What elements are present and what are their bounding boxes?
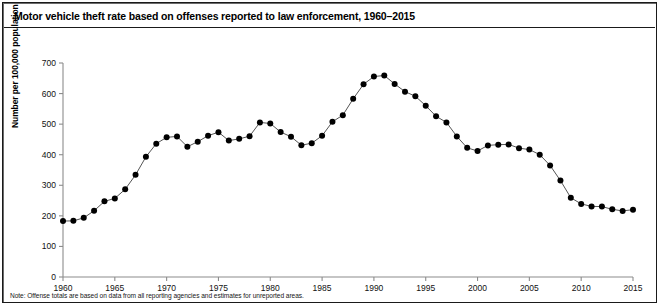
data-point-marker	[443, 119, 449, 125]
data-point-marker	[288, 134, 294, 140]
axis-layer	[59, 63, 633, 281]
data-point-marker	[578, 201, 584, 207]
data-point-marker	[112, 195, 118, 201]
data-point-marker	[589, 203, 595, 209]
data-point-marker	[620, 208, 626, 214]
figure-container: Motor vehicle theft rate based on offens…	[0, 0, 659, 305]
data-point-marker	[392, 81, 398, 87]
data-point-marker	[247, 133, 253, 139]
data-point-marker	[267, 120, 273, 126]
y-axis-tick-label: 700	[30, 59, 56, 68]
x-axis-tick-label: 2005	[514, 284, 544, 293]
data-point-marker	[309, 140, 315, 146]
y-axis-tick-label: 0	[30, 273, 56, 282]
title-bar: Motor vehicle theft rate based on offens…	[4, 4, 655, 28]
y-axis-label: Number per 100,000 population	[10, 114, 20, 128]
data-point-marker	[433, 113, 439, 119]
data-point-marker	[557, 178, 563, 184]
y-axis-tick-label: 300	[30, 181, 56, 190]
data-point-marker	[184, 144, 190, 150]
data-point-marker	[298, 142, 304, 148]
y-axis-tick-label: 600	[30, 90, 56, 99]
data-point-marker	[464, 145, 470, 151]
data-point-marker	[319, 133, 325, 139]
data-point-marker	[423, 103, 429, 109]
data-point-marker	[133, 172, 139, 178]
x-axis-tick-label: 2010	[566, 284, 596, 293]
data-point-marker	[215, 129, 221, 135]
series-layer	[60, 73, 636, 225]
line-chart-svg	[0, 28, 659, 305]
plot-area: Number per 100,000 population 0100200300…	[0, 28, 659, 305]
data-point-marker	[630, 207, 636, 213]
x-axis-tick-label: 2015	[618, 284, 648, 293]
data-point-marker	[174, 133, 180, 139]
data-point-marker	[568, 195, 574, 201]
y-axis-tick-labels: 0100200300400500600700	[22, 28, 56, 305]
data-point-marker	[526, 147, 532, 153]
data-point-marker	[236, 136, 242, 142]
data-point-marker	[340, 112, 346, 118]
data-point-marker	[412, 93, 418, 99]
data-point-marker	[485, 142, 491, 148]
data-point-marker	[350, 96, 356, 102]
data-point-marker	[495, 142, 501, 148]
data-point-marker	[91, 208, 97, 214]
data-point-marker	[164, 134, 170, 140]
data-point-marker	[381, 73, 387, 79]
data-point-marker	[205, 133, 211, 139]
data-point-marker	[516, 145, 522, 151]
x-axis-tick-label: 2000	[463, 284, 493, 293]
y-axis-tick-label: 500	[30, 120, 56, 129]
data-point-marker	[257, 119, 263, 125]
data-point-marker	[475, 148, 481, 154]
x-axis-tick-label: 1995	[411, 284, 441, 293]
figure-note: Note: Offense totals are based on data f…	[10, 292, 304, 299]
data-point-marker	[329, 119, 335, 125]
data-point-marker	[226, 138, 232, 144]
y-axis-tick-label: 400	[30, 151, 56, 160]
data-point-marker	[70, 218, 76, 224]
x-axis-tick-label: 1990	[359, 284, 389, 293]
data-point-marker	[454, 133, 460, 139]
data-point-marker	[371, 74, 377, 80]
data-point-marker	[143, 154, 149, 160]
y-axis-tick-label: 200	[30, 212, 56, 221]
data-point-marker	[547, 162, 553, 168]
data-point-marker	[599, 204, 605, 210]
data-point-marker	[153, 141, 159, 147]
y-axis-tick-label: 100	[30, 242, 56, 251]
data-point-marker	[60, 218, 66, 224]
page-title: Motor vehicle theft rate based on offens…	[4, 10, 415, 22]
data-point-marker	[195, 139, 201, 145]
series-line	[63, 76, 633, 222]
data-point-marker	[101, 198, 107, 204]
data-point-marker	[278, 129, 284, 135]
data-point-marker	[402, 89, 408, 95]
data-point-marker	[361, 81, 367, 87]
data-point-marker	[81, 215, 87, 221]
x-axis-tick-label: 1985	[307, 284, 337, 293]
data-point-marker	[122, 186, 128, 192]
data-point-marker	[506, 141, 512, 147]
data-point-marker	[537, 152, 543, 158]
data-point-marker	[609, 206, 615, 212]
